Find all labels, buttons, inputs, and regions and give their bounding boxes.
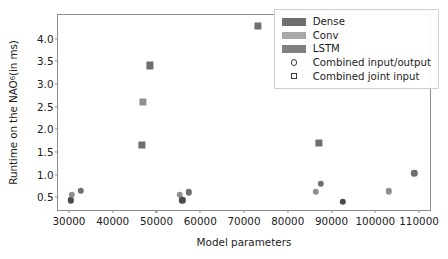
data-point <box>313 189 319 195</box>
y-axis-tick-mark <box>55 151 58 152</box>
legend-item-label: Dense <box>313 16 345 27</box>
data-point <box>179 197 185 203</box>
y-axis-label: Runtime on the NAO6 (in ms) <box>5 14 21 211</box>
scatter-chart-figure: 0.51.01.52.02.53.03.54.03000040000500006… <box>0 0 448 259</box>
data-point <box>411 170 417 176</box>
x-axis-tick-label: 50000 <box>140 215 173 227</box>
legend-item-label: Combined joint input <box>313 71 420 82</box>
data-point <box>186 189 192 195</box>
y-axis-tick-label: 2.5 <box>37 101 54 113</box>
y-axis-tick-label: 4.0 <box>37 33 54 45</box>
data-point <box>68 191 74 197</box>
y-axis-tick-label: 3.0 <box>37 78 54 90</box>
data-point <box>318 180 324 186</box>
y-axis-tick-label: 0.5 <box>37 191 54 203</box>
x-axis-tick-label: 110000 <box>399 215 439 227</box>
legend-key <box>281 32 307 40</box>
legend-circle-marker-icon <box>291 59 297 65</box>
data-point <box>254 22 261 29</box>
y-axis-tick-mark <box>55 83 58 84</box>
data-point <box>340 199 346 205</box>
y-axis-tick-mark <box>55 129 58 130</box>
y-axis-label-text: Runtime on the NAO <box>7 80 19 184</box>
x-axis-tick-mark <box>156 210 157 213</box>
y-axis-tick-mark <box>55 197 58 198</box>
y-axis-tick-label: 1.0 <box>37 169 54 181</box>
x-axis-tick-mark <box>331 210 332 213</box>
data-point <box>386 188 392 194</box>
x-axis-tick-mark <box>68 210 69 213</box>
data-point <box>316 139 323 146</box>
x-axis-tick-mark <box>375 210 376 213</box>
x-axis-tick-mark <box>112 210 113 213</box>
legend-item: Combined input/output <box>281 56 431 70</box>
legend-color-patch <box>282 45 306 53</box>
x-axis-tick-label: 30000 <box>52 215 85 227</box>
x-axis-tick-mark <box>200 210 201 213</box>
y-axis-tick-mark <box>55 174 58 175</box>
y-axis-tick-mark <box>55 61 58 62</box>
y-axis-label-units: (in ms) <box>7 40 19 76</box>
legend-square-marker-icon <box>291 73 297 79</box>
x-axis-tick-label: 80000 <box>271 215 304 227</box>
y-axis-tick-label: 3.5 <box>37 55 54 67</box>
data-point <box>146 62 153 69</box>
x-axis-tick-label: 60000 <box>184 215 217 227</box>
legend-item: LSTM <box>281 42 431 56</box>
legend-key <box>281 59 307 65</box>
x-axis-tick-mark <box>287 210 288 213</box>
x-axis-tick-label: 100000 <box>355 215 395 227</box>
x-axis-label: Model parameters <box>57 236 431 248</box>
y-axis-tick-label: 2.0 <box>37 123 54 135</box>
x-axis-tick-mark <box>243 210 244 213</box>
legend-item: Conv <box>281 29 431 43</box>
y-axis-tick-label: 1.5 <box>37 146 54 158</box>
legend-item-label: Combined input/output <box>313 57 431 68</box>
legend-key <box>281 73 307 79</box>
x-axis-tick-label: 90000 <box>315 215 348 227</box>
legend-item-label: LSTM <box>313 43 340 54</box>
legend-color-patch <box>282 18 306 26</box>
legend-key <box>281 18 307 26</box>
y-axis-tick-mark <box>55 38 58 39</box>
legend-key <box>281 45 307 53</box>
legend-color-patch <box>282 32 306 40</box>
legend-item: Dense <box>281 15 431 29</box>
legend: DenseConvLSTMCombined input/outputCombin… <box>274 9 439 89</box>
data-point <box>139 98 146 105</box>
x-axis-tick-mark <box>419 210 420 213</box>
x-axis-tick-label: 40000 <box>96 215 129 227</box>
data-point <box>138 141 145 148</box>
y-axis-tick-mark <box>55 106 58 107</box>
legend-item: Combined joint input <box>281 69 431 83</box>
data-point <box>78 187 84 193</box>
x-axis-tick-label: 70000 <box>227 215 260 227</box>
data-point <box>67 197 73 203</box>
legend-item-label: Conv <box>313 30 339 41</box>
